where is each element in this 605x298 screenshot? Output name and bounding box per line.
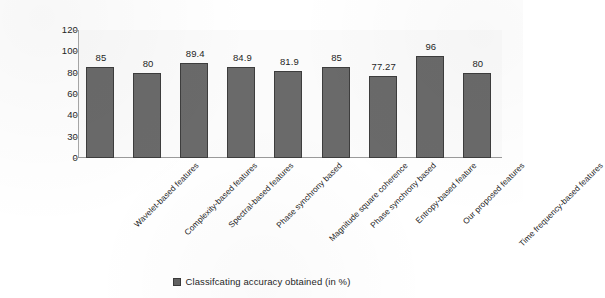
bars-layer: 858089.484.981.98577.279680 — [78, 30, 502, 158]
x-axis-labels: Wavelet-based featuresComplexity-based f… — [78, 159, 508, 271]
bar-slot: 77.27 — [361, 30, 408, 158]
bar-slot: 85 — [314, 30, 361, 158]
y-axis-tick-label: 100 — [8, 46, 78, 56]
x-axis-tick-label: Time frequency-based features — [518, 161, 605, 248]
y-axis: 120100806040300 — [0, 0, 78, 298]
bar[interactable] — [133, 73, 161, 158]
bar-slot: 85 — [78, 30, 125, 158]
bar-value-label: 80 — [119, 59, 177, 69]
legend-swatch-icon — [173, 278, 181, 286]
bar-slot: 80 — [455, 30, 502, 158]
bar-slot: 81.9 — [266, 30, 313, 158]
bar-slot: 89.4 — [172, 30, 219, 158]
bar[interactable] — [369, 76, 397, 158]
y-axis-tick-label: 30 — [8, 132, 78, 142]
bar-slot: 96 — [408, 30, 455, 158]
bar[interactable] — [322, 67, 350, 158]
y-axis-tick-label: 120 — [8, 25, 78, 35]
chart-legend: Classifcating accuracy obtained (in %) — [0, 276, 523, 287]
y-axis-tick-label: 0 — [8, 153, 78, 163]
bar-slot: 80 — [125, 30, 172, 158]
bar[interactable] — [227, 67, 255, 158]
bar-value-label: 77.27 — [355, 62, 413, 72]
y-axis-tick-label: 80 — [8, 68, 78, 78]
bar-value-label: 80 — [449, 59, 507, 69]
bar[interactable] — [416, 56, 444, 158]
legend-label: Classifcating accuracy obtained (in %) — [186, 276, 351, 287]
bar-slot: 84.9 — [219, 30, 266, 158]
x-axis-tick-label: Wavelet-based features — [133, 161, 201, 229]
bar[interactable] — [86, 67, 114, 158]
y-axis-tick-label: 60 — [8, 89, 78, 99]
bar[interactable] — [274, 71, 302, 158]
bar-value-label: 96 — [402, 42, 460, 52]
bar[interactable] — [463, 73, 491, 158]
bar[interactable] — [180, 63, 208, 158]
y-axis-tick-label: 40 — [8, 110, 78, 120]
